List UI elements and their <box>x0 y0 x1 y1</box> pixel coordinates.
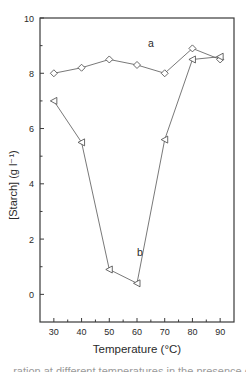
x-tick-label: 60 <box>132 327 142 337</box>
x-tick-label: 40 <box>77 327 87 337</box>
x-axis-ticks: 30405060708090 <box>49 318 225 337</box>
y-tick-label: 10 <box>24 14 34 24</box>
y-tick-label: 6 <box>29 124 34 134</box>
series-label-a: a <box>148 37 154 49</box>
x-tick-label: 30 <box>49 327 59 337</box>
y-tick-label: 8 <box>29 69 34 79</box>
y-tick-label: 0 <box>29 290 34 300</box>
y-axis-ticks: 0246810 <box>24 14 44 300</box>
diamond-marker <box>106 56 113 63</box>
x-tick-label: 80 <box>187 327 197 337</box>
series-b: b <box>50 53 223 287</box>
y-axis-label: [Starch] (g l⁻¹) <box>7 150 19 220</box>
series-label-b: b <box>137 246 143 258</box>
figure-caption-clipped: ...ration at different temperatures in t… <box>4 364 246 372</box>
diamond-marker <box>78 64 85 71</box>
data-series: ab <box>50 37 223 287</box>
triangle-left-marker <box>134 280 141 287</box>
y-tick-label: 2 <box>29 235 34 245</box>
triangle-left-marker <box>78 139 85 146</box>
series-a: a <box>50 37 223 77</box>
diamond-marker <box>134 61 141 68</box>
triangle-left-marker <box>50 97 57 104</box>
x-tick-label: 90 <box>215 327 225 337</box>
x-tick-label: 50 <box>104 327 114 337</box>
diamond-marker <box>50 70 57 77</box>
triangle-left-marker <box>189 56 196 63</box>
y-tick-label: 4 <box>29 179 34 189</box>
x-axis-label: Temperature (°C) <box>93 343 181 355</box>
x-tick-label: 70 <box>160 327 170 337</box>
starch-temperature-chart: 0246810 30405060708090 ab Temperature (°… <box>0 0 246 372</box>
